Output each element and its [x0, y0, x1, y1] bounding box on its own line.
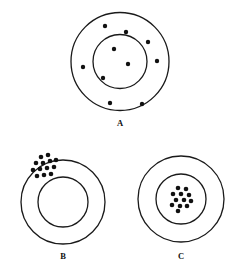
dot-marker: [81, 65, 85, 69]
panel-c-label: C: [178, 251, 184, 261]
dot-marker: [42, 173, 47, 178]
dot-marker: [178, 204, 183, 209]
dot-marker: [182, 198, 187, 203]
dot-marker: [46, 153, 51, 158]
dot-marker: [54, 158, 59, 163]
dot-marker: [176, 186, 181, 191]
dot-marker: [146, 40, 150, 44]
dot-marker: [41, 161, 46, 166]
dot-marker: [38, 167, 43, 172]
panel-b-label: B: [60, 251, 66, 261]
dot-marker: [108, 101, 112, 105]
figure-background: [0, 0, 246, 274]
dot-marker: [140, 102, 144, 106]
dot-marker: [124, 30, 128, 34]
dot-marker: [189, 199, 194, 204]
dot-marker: [45, 166, 50, 171]
dot-marker: [52, 165, 57, 170]
dot-marker: [35, 174, 40, 179]
dot-marker: [185, 204, 190, 209]
dot-marker: [179, 192, 184, 197]
dot-marker: [101, 76, 105, 80]
dot-marker: [103, 24, 107, 28]
dot-marker: [155, 59, 159, 63]
dot-marker: [48, 159, 53, 164]
panel-a-label: A: [117, 118, 124, 128]
dot-marker: [170, 203, 175, 208]
figure-canvas: A B C: [0, 0, 246, 274]
dot-marker: [34, 161, 39, 166]
dot-marker: [171, 192, 176, 197]
dot-marker: [176, 209, 181, 214]
dot-marker: [187, 193, 192, 198]
dot-marker: [112, 47, 116, 51]
dot-marker: [184, 187, 189, 192]
dot-marker: [31, 168, 36, 173]
dot-marker: [126, 62, 130, 66]
dot-marker: [49, 172, 54, 177]
dot-marker: [39, 155, 44, 160]
dot-marker: [174, 198, 179, 203]
